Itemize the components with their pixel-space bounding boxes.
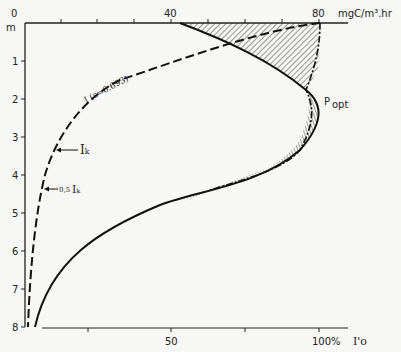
- bottom-tick-50: 50: [165, 336, 178, 347]
- arrow-left-icon: [56, 148, 61, 153]
- depth-tick-8: 8: [12, 322, 18, 333]
- top-tick-40: 40: [164, 8, 177, 19]
- depth-tick-3: 3: [12, 132, 18, 143]
- popt-sub: opt: [332, 99, 348, 110]
- production-curve: [35, 23, 319, 327]
- ik-label: Iₖ: [80, 143, 90, 157]
- depth-tick-2: 2: [12, 94, 18, 105]
- depth-ticks: 1 2 3 4 5 6 7 8: [12, 56, 25, 333]
- half-ik-prefix: 0,5: [59, 186, 70, 194]
- depth-tick-5: 5: [12, 208, 18, 219]
- hatched-region-lower: [180, 90, 318, 202]
- popt-main: P: [324, 96, 330, 107]
- hatched-region-upper: [180, 23, 320, 90]
- ik-annotation: Iₖ: [56, 143, 90, 157]
- top-tick-0: 0: [11, 8, 17, 19]
- top-axis: 0 40 80 mgC/m³.hr: [11, 8, 393, 23]
- top-tick-80: 80: [312, 8, 325, 19]
- bottom-axis-unit: I'o: [353, 335, 367, 348]
- light-curve-label: I (ε=0.693): [82, 73, 130, 105]
- half-ik-label: Iₖ: [72, 183, 81, 196]
- bottom-tick-100: 100%: [312, 336, 341, 347]
- depth-tick-7: 7: [12, 284, 18, 295]
- top-axis-unit: mgC/m³.hr: [338, 8, 393, 19]
- depth-profile-chart: 0 40 80 mgC/m³.hr m 1 2 3 4 5 6 7 8: [0, 0, 401, 352]
- depth-unit: m: [6, 22, 16, 33]
- half-ik-annotation: 0,5 Iₖ: [44, 183, 81, 196]
- depth-axis: m 1 2 3 4 5 6 7 8: [6, 22, 25, 333]
- popt-label: P opt: [324, 96, 348, 110]
- depth-tick-4: 4: [12, 170, 18, 181]
- depth-tick-1: 1: [12, 56, 18, 67]
- arrow-left-icon: [44, 187, 49, 192]
- depth-tick-6: 6: [12, 246, 18, 257]
- bottom-axis: 50 100% I'o: [42, 328, 367, 348]
